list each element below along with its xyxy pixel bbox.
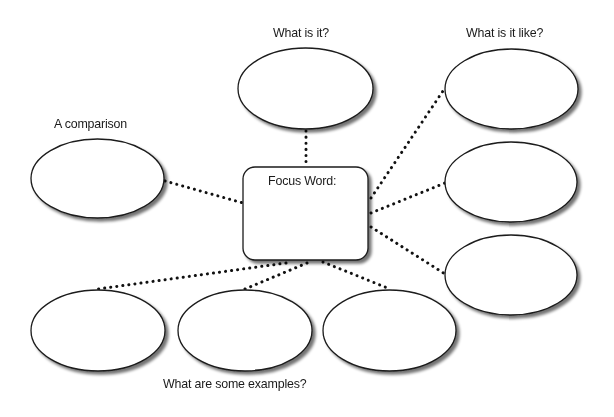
node-like-3[interactable] (445, 235, 577, 315)
node-comparison[interactable] (31, 139, 164, 218)
connector-like-2 (371, 183, 445, 213)
node-example-1[interactable] (31, 290, 165, 371)
label-examples: What are some examples? (163, 377, 307, 391)
label-what-is-it: What is it? (273, 26, 329, 40)
node-example-2[interactable] (178, 290, 312, 371)
node-what-is-it[interactable] (238, 48, 373, 129)
connector-example-3 (323, 262, 390, 289)
connector-comparison (165, 181, 243, 203)
diagram-canvas (0, 0, 614, 417)
node-like-2[interactable] (445, 142, 577, 222)
connector-like-3 (371, 227, 445, 274)
node-like-1[interactable] (445, 49, 578, 129)
node-example-3[interactable] (323, 290, 456, 371)
label-comparison: A comparison (54, 117, 127, 131)
concept-map-diagram: What is it? What is it like? A compariso… (0, 0, 614, 417)
connector-example-1 (98, 263, 286, 289)
label-what-is-it-like: What is it like? (466, 26, 543, 40)
connector-like-1 (371, 88, 445, 198)
focus-word-label: Focus Word: (268, 174, 336, 188)
